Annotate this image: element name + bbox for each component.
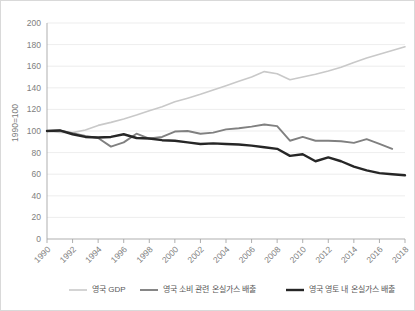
y-axis-tick-label: 140 [27, 83, 41, 93]
x-axis-tick-label: 2000 [160, 244, 181, 265]
x-axis-ticks-group: 1990199219941996199820002002200420062008… [32, 239, 411, 265]
x-axis-tick-label: 2006 [237, 244, 258, 265]
x-axis-tick-label: 1996 [109, 244, 130, 265]
x-axis-tick-label: 1994 [83, 244, 104, 265]
y-axis-tick-label: 0 [36, 234, 41, 244]
y-axis-tick-label: 80 [32, 148, 42, 158]
series-line-0 [47, 47, 405, 133]
x-axis-tick-label: 1990 [32, 244, 53, 265]
x-axis-tick-label: 2004 [211, 244, 232, 265]
x-axis-tick-label: 2012 [313, 244, 334, 265]
x-axis-tick-label: 1998 [134, 244, 155, 265]
x-axis-tick-label: 2008 [262, 244, 283, 265]
y-axis-tick-label: 180 [27, 40, 41, 50]
x-axis-tick-label: 2016 [364, 244, 385, 265]
line-chart: 0204060801001201401601802001990199219941… [1, 1, 415, 311]
y-axis-tick-label: 120 [27, 104, 41, 114]
legend-label-2: 영국 영토 내 온실가스 배출 [309, 284, 395, 294]
chart-figure: 0204060801001201401601802001990199219941… [0, 0, 415, 311]
x-axis-tick-label: 2014 [339, 244, 360, 265]
x-axis-tick-label: 2018 [390, 244, 411, 265]
x-axis-tick-label: 2002 [185, 244, 206, 265]
y-axis-tick-label: 60 [32, 169, 42, 179]
x-axis-tick-label: 2010 [288, 244, 309, 265]
legend-label-1: 영국 소비 관련 온실가스 배출 [163, 284, 256, 294]
y-axis-tick-label: 20 [32, 212, 42, 222]
x-axis-tick-label: 1992 [58, 244, 79, 265]
legend: 영국 GDP영국 소비 관련 온실가스 배출영국 영토 내 온실가스 배출 [69, 284, 395, 294]
legend-label-0: 영국 GDP [92, 284, 126, 294]
y-axis-title: 1990=100 [10, 104, 20, 142]
y-axis-tick-label: 40 [32, 191, 42, 201]
y-axis-tick-label: 200 [27, 18, 41, 28]
y-axis-tick-label: 100 [27, 126, 41, 136]
y-axis-tick-label: 160 [27, 61, 41, 71]
